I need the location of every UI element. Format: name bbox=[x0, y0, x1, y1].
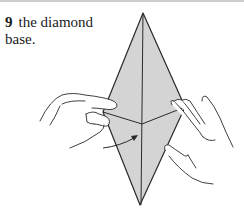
diamond-base-illustration bbox=[0, 0, 244, 216]
left-hand-icon bbox=[40, 94, 117, 149]
paper-diamond bbox=[103, 13, 185, 205]
